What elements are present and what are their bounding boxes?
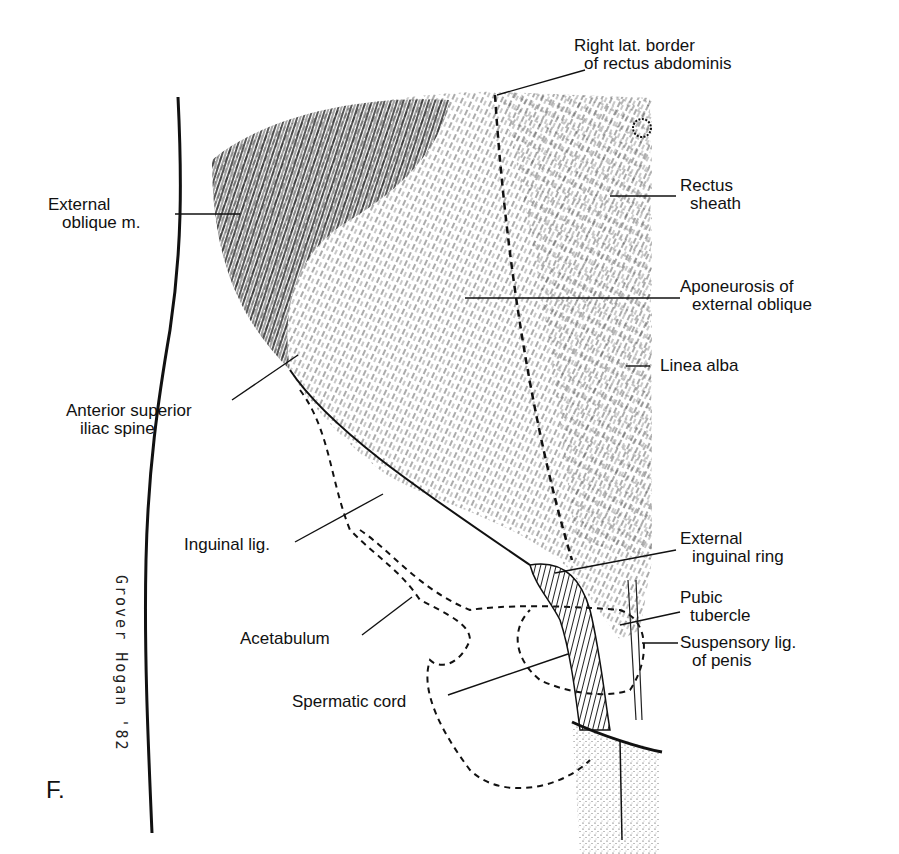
label-right-lat-border: Right lat. border of rectus abdominis (574, 37, 731, 73)
penis-shaft (572, 722, 660, 854)
label-external-oblique: External oblique m. (48, 196, 140, 232)
label-inguinal-lig: Inguinal lig. (184, 536, 270, 554)
label-aponeurosis: Aponeurosis of external oblique (680, 278, 812, 314)
label-linea-alba: Linea alba (660, 357, 738, 375)
label-acetabulum: Acetabulum (240, 630, 330, 648)
body-contour-line (145, 97, 180, 833)
figure-panel-letter: F. (46, 781, 65, 799)
artist-signature: Grover Hogan '82 (112, 575, 130, 752)
label-pubic-tubercle: Pubic tubercle (680, 589, 750, 625)
label-rectus-sheath: Rectus sheath (680, 177, 741, 213)
label-spermatic-cord: Spermatic cord (292, 693, 406, 711)
label-suspensory-lig: Suspensory lig. of penis (680, 634, 796, 670)
label-external-inguinal-ring: External inguinal ring (680, 530, 784, 566)
label-asis: Anterior superior iliac spine (66, 402, 192, 438)
